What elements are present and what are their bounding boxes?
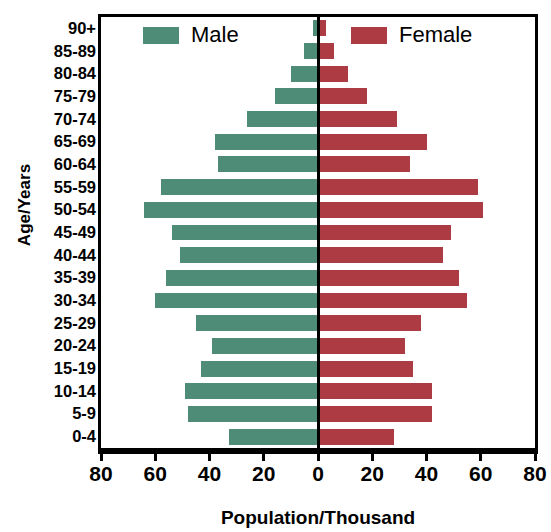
y-axis-tick-label: 60-64: [28, 156, 96, 173]
x-axis-tick: [262, 451, 265, 461]
bar-male[interactable]: [229, 429, 319, 445]
x-axis-tick-label: 60: [129, 463, 181, 484]
bar-male[interactable]: [215, 134, 318, 150]
bar-male[interactable]: [291, 66, 318, 82]
x-axis-tick-label: 20: [346, 463, 398, 484]
x-axis-tick: [208, 451, 211, 461]
y-axis-tick-label: 15-19: [28, 360, 96, 377]
bar-male[interactable]: [144, 202, 318, 218]
bar-male[interactable]: [218, 156, 318, 172]
x-axis-tick: [100, 451, 103, 461]
x-axis-tick: [425, 451, 428, 461]
bar-female[interactable]: [318, 156, 410, 172]
zero-axis-line: [317, 17, 320, 448]
bar-female[interactable]: [318, 383, 432, 399]
bar-female[interactable]: [318, 270, 459, 286]
y-axis-tick-label: 20-24: [28, 337, 96, 354]
y-axis-tick-label: 80-84: [28, 65, 96, 82]
bar-male[interactable]: [247, 111, 318, 127]
bar-male[interactable]: [166, 270, 318, 286]
legend-label-female: Female: [399, 24, 472, 46]
x-axis-tick: [317, 451, 320, 461]
y-axis-tick-label: 85-89: [28, 43, 96, 60]
bar-male[interactable]: [275, 88, 318, 104]
y-axis-tick-label: 50-54: [28, 201, 96, 218]
bar-male[interactable]: [172, 225, 318, 241]
bar-male[interactable]: [201, 361, 318, 377]
bar-female[interactable]: [318, 66, 348, 82]
bar-female[interactable]: [318, 429, 394, 445]
x-axis-tick-label: 20: [238, 463, 290, 484]
bar-female[interactable]: [318, 315, 421, 331]
x-axis-tick-label: 60: [455, 463, 507, 484]
x-axis-title: Population/Thousand: [98, 507, 538, 529]
bar-male[interactable]: [155, 293, 318, 309]
bar-female[interactable]: [318, 361, 413, 377]
y-axis-tick-label: 35-39: [28, 269, 96, 286]
bar-male[interactable]: [196, 315, 318, 331]
bar-female[interactable]: [318, 202, 483, 218]
y-axis-tick-label: 5-9: [28, 405, 96, 422]
y-axis-tick-label: 45-49: [28, 224, 96, 241]
y-axis-tick-label: 65-69: [28, 133, 96, 150]
x-axis: 80604020020406080: [98, 451, 538, 452]
bar-male[interactable]: [185, 383, 318, 399]
x-axis-tick-label: 40: [401, 463, 453, 484]
bar-female[interactable]: [318, 293, 467, 309]
bar-female[interactable]: [318, 134, 427, 150]
bar-female[interactable]: [318, 179, 478, 195]
bar-female[interactable]: [318, 406, 432, 422]
x-axis-tick: [534, 451, 537, 461]
y-axis-tick-label: 10-14: [28, 383, 96, 400]
bar-female[interactable]: [318, 225, 451, 241]
legend-swatch-male-icon: [143, 27, 179, 44]
bar-male[interactable]: [180, 247, 318, 263]
y-axis-tick-label: 30-34: [28, 292, 96, 309]
y-axis-tick-label: 70-74: [28, 111, 96, 128]
y-axis-tick-label: 0-4: [28, 428, 96, 445]
bar-female[interactable]: [318, 247, 443, 263]
x-axis-tick: [371, 451, 374, 461]
bar-male[interactable]: [161, 179, 318, 195]
legend-swatch-female-icon: [351, 27, 387, 44]
y-axis-tick-label: 90+: [28, 20, 96, 37]
x-axis-tick: [154, 451, 157, 461]
bar-male[interactable]: [212, 338, 318, 354]
x-axis-tick-label: 80: [509, 463, 551, 484]
x-axis-tick-label: 40: [184, 463, 236, 484]
bar-female[interactable]: [318, 111, 397, 127]
bar-female[interactable]: [318, 88, 367, 104]
y-axis-tick-label: 25-29: [28, 315, 96, 332]
y-axis-tick-label: 55-59: [28, 179, 96, 196]
plot-area: Male Female: [98, 14, 538, 451]
bar-female[interactable]: [318, 43, 334, 59]
legend-item-male[interactable]: Male: [143, 24, 239, 46]
legend-label-male: Male: [191, 24, 239, 46]
legend-item-female[interactable]: Female: [351, 24, 472, 46]
x-axis-tick-label: 0: [292, 463, 344, 484]
bar-male[interactable]: [188, 406, 318, 422]
x-axis-tick: [479, 451, 482, 461]
y-axis-tick-label: 40-44: [28, 247, 96, 264]
y-axis-tick-labels: 90+85-8980-8475-7970-7465-6960-6455-5950…: [28, 14, 96, 451]
x-axis-tick-label: 80: [75, 463, 127, 484]
bar-female[interactable]: [318, 338, 405, 354]
y-axis-tick-label: 75-79: [28, 88, 96, 105]
